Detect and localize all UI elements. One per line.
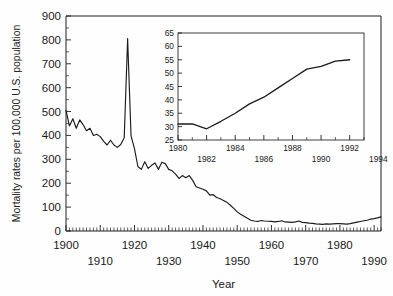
inset-x-axis-tick-label: 1980 bbox=[169, 143, 188, 153]
inset-y-axis-tick-label: 65 bbox=[165, 28, 175, 38]
inset-x-axis-tick-label: 1992 bbox=[340, 143, 359, 153]
chart-canvas: 0100200300400500600700800900190019101920… bbox=[0, 0, 393, 296]
inset-x-axis-tick-label: 1994 bbox=[369, 154, 388, 164]
inset-x-axis-tick-label: 1982 bbox=[197, 154, 216, 164]
y-axis-tick-label: 200 bbox=[42, 177, 61, 189]
inset-x-axis-tick-label: 1988 bbox=[283, 143, 302, 153]
x-axis-tick-label: 1910 bbox=[87, 255, 113, 267]
infectious-disease-mortality-chart: 0100200300400500600700800900190019101920… bbox=[0, 0, 393, 296]
inset-y-axis-tick-label: 30 bbox=[165, 122, 175, 132]
y-axis-tick-label: 400 bbox=[42, 129, 61, 141]
x-axis-tick-label: 1950 bbox=[224, 255, 250, 267]
y-axis-tick-label: 300 bbox=[42, 153, 61, 165]
inset-y-axis-tick-label: 40 bbox=[165, 95, 175, 105]
inset-y-axis-tick-label: 50 bbox=[165, 68, 175, 78]
x-axis-tick-label: 1960 bbox=[259, 239, 285, 251]
y-axis-tick-label: 800 bbox=[42, 34, 61, 46]
y-axis-tick-label: 100 bbox=[42, 201, 61, 213]
inset-y-axis-tick-label: 60 bbox=[165, 41, 175, 51]
inset-plot-frame bbox=[178, 33, 364, 140]
inset-x-axis-tick-label: 1984 bbox=[226, 143, 245, 153]
y-axis-tick-label: 0 bbox=[55, 225, 61, 237]
y-axis-tick-label: 900 bbox=[42, 10, 61, 22]
y-axis-tick-label: 500 bbox=[42, 106, 61, 118]
x-axis-tick-label: 1990 bbox=[361, 255, 387, 267]
y-axis-tick-label: 700 bbox=[42, 58, 61, 70]
inset-x-axis-tick-label: 1990 bbox=[312, 154, 331, 164]
x-axis-tick-label: 1900 bbox=[53, 239, 79, 251]
inset-x-axis-tick-label: 1986 bbox=[255, 154, 274, 164]
y-axis-title: Mortality rates per 100,000 U.S. populat… bbox=[11, 25, 22, 223]
x-axis-tick-label: 1940 bbox=[190, 239, 216, 251]
x-axis-title: Year bbox=[212, 278, 235, 290]
y-axis-tick-label: 600 bbox=[42, 82, 61, 94]
x-axis-tick-label: 1930 bbox=[156, 255, 182, 267]
inset-y-axis-tick-label: 35 bbox=[165, 108, 175, 118]
x-axis-tick-label: 1980 bbox=[327, 239, 353, 251]
x-axis-tick-label: 1920 bbox=[122, 239, 148, 251]
x-axis-tick-label: 1970 bbox=[293, 255, 319, 267]
inset-y-axis-tick-label: 45 bbox=[165, 82, 175, 92]
inset-y-axis-tick-label: 55 bbox=[165, 55, 175, 65]
